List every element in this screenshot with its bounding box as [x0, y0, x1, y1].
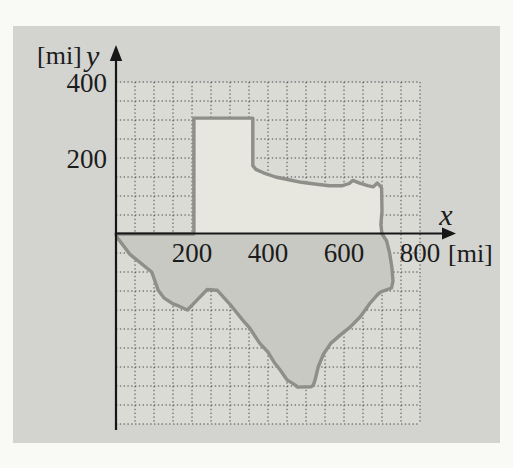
x-tick-label-600: 600: [324, 238, 365, 268]
y-axis-unit-label: [mi]: [37, 41, 82, 70]
x-axis-letter: x: [438, 198, 453, 231]
texas-area-figure: [mi] y 400 200 200 400 600 800 [mi] x: [0, 0, 513, 468]
x-tick-label-400: 400: [248, 238, 289, 268]
y-tick-label-400: 400: [67, 68, 108, 98]
x-axis-unit-label: [mi]: [448, 239, 493, 268]
y-tick-label-200: 200: [67, 144, 108, 174]
x-tick-label-200: 200: [172, 238, 213, 268]
coordinate-grid-chart: [mi] y 400 200 200 400 600 800 [mi] x: [0, 0, 513, 468]
x-tick-label-800: 800: [400, 238, 441, 268]
